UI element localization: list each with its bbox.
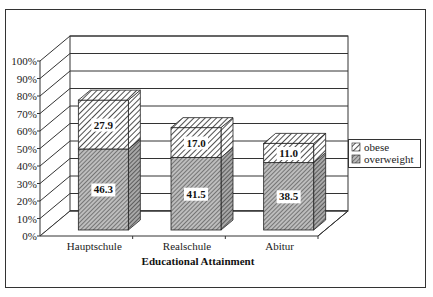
bar-realschule: 41.517.0 bbox=[171, 118, 233, 230]
bar-side-overweight bbox=[128, 139, 140, 230]
data-label-obese: 11.0 bbox=[279, 147, 298, 159]
bar-abitur: 38.511.0 bbox=[264, 133, 326, 230]
y-tick-label: 10% bbox=[17, 213, 37, 225]
y-tick-label: 40% bbox=[17, 160, 37, 172]
data-label-overweight: 41.5 bbox=[186, 188, 206, 200]
data-label-overweight: 38.5 bbox=[279, 190, 299, 202]
legend-swatch-obese bbox=[352, 143, 360, 151]
y-tick-label: 70% bbox=[17, 108, 37, 120]
bar-side-overweight bbox=[314, 153, 326, 230]
bar-side-overweight bbox=[221, 147, 233, 230]
x-axis-label: Educational Attainment bbox=[142, 255, 255, 267]
legend-label-obese: obese bbox=[364, 141, 389, 153]
y-tick-label: 0% bbox=[22, 230, 37, 242]
stacked-3d-bar-chart: 0%10%20%30%40%50%60%70%80%90%100%46.327.… bbox=[0, 0, 433, 297]
y-tick-label: 20% bbox=[17, 195, 37, 207]
data-label-obese: 27.9 bbox=[94, 119, 114, 131]
legend-swatch-overweight bbox=[352, 155, 360, 163]
x-tick-label: Hauptschule bbox=[67, 240, 122, 252]
y-tick-label: 50% bbox=[17, 143, 37, 155]
y-tick-label: 60% bbox=[17, 125, 37, 137]
data-label-obese: 17.0 bbox=[186, 137, 206, 149]
y-tick-label: 90% bbox=[17, 73, 37, 85]
legend-label-overweight: overweight bbox=[364, 153, 413, 165]
y-tick-label: 30% bbox=[17, 178, 37, 190]
x-tick-label: Abitur bbox=[265, 240, 294, 252]
y-tick-label: 100% bbox=[11, 55, 37, 67]
data-label-overweight: 46.3 bbox=[94, 183, 114, 195]
x-tick-label: Realschule bbox=[163, 240, 211, 252]
bar-hauptschule: 46.327.9 bbox=[78, 90, 140, 230]
y-tick-label: 80% bbox=[17, 90, 37, 102]
